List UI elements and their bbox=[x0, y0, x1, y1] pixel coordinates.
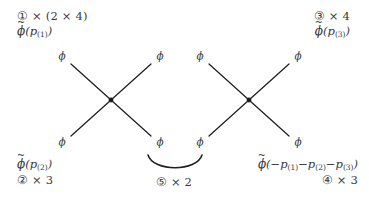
paren-close: ) bbox=[48, 24, 53, 38]
annotation-bottom-left: ~ ϕ (p(2)) ② × 3 bbox=[17, 157, 53, 188]
vertex-dot bbox=[109, 98, 114, 103]
momentum-term-1: −p bbox=[271, 157, 288, 171]
leg-lower-left bbox=[209, 100, 249, 136]
leg-upper-left bbox=[71, 64, 111, 100]
left-vertex-diagram: ϕ ϕ ϕ ϕ bbox=[58, 52, 164, 148]
field-label-p1: ~ ϕ (p(1)) bbox=[17, 24, 88, 40]
factor-label-5: ⑤ × 2 bbox=[141, 175, 207, 190]
annotation-top-right: ③ × 4 ~ ϕ (p(3)) bbox=[246, 9, 350, 40]
momentum-subscript-3: (3) bbox=[343, 163, 354, 172]
momentum-symbol: p bbox=[30, 24, 37, 38]
contraction-arc-icon bbox=[144, 152, 206, 174]
paren-close: ) bbox=[346, 24, 351, 38]
leg-label-lower-right: ϕ bbox=[156, 136, 163, 148]
leg-upper-right bbox=[249, 64, 289, 100]
momentum-subscript-2: (2) bbox=[315, 163, 326, 172]
operator-minus-2: − bbox=[326, 157, 336, 171]
field-label-p2: ~ ϕ (p(2)) bbox=[17, 157, 53, 173]
paren-close: ) bbox=[48, 157, 53, 171]
factor-label-3: ③ × 4 bbox=[246, 9, 350, 24]
momentum-subscript: (3) bbox=[335, 30, 346, 39]
momentum-term-3: p bbox=[336, 157, 343, 171]
leg-upper-right bbox=[111, 64, 151, 100]
phi-tilde-symbol: ~ ϕ bbox=[315, 24, 323, 40]
phi-tilde-symbol: ~ ϕ bbox=[258, 157, 266, 173]
phi-tilde-symbol: ~ ϕ bbox=[17, 157, 25, 173]
leg-label-upper-left: ϕ bbox=[58, 50, 65, 62]
factor-label-1: ① × (2 × 4) bbox=[17, 9, 88, 24]
leg-label-upper-right: ϕ bbox=[156, 50, 163, 62]
annotation-top-left: ① × (2 × 4) ~ ϕ (p(1)) bbox=[17, 9, 88, 40]
leg-label-upper-right: ϕ bbox=[294, 50, 301, 62]
leg-upper-left bbox=[209, 64, 249, 100]
arc-curve bbox=[148, 155, 202, 168]
leg-label-lower-right: ϕ bbox=[294, 136, 301, 148]
leg-lower-right bbox=[111, 100, 151, 136]
phi-tilde-symbol: ~ ϕ bbox=[17, 24, 25, 40]
leg-label-upper-left: ϕ bbox=[196, 50, 203, 62]
tilde-accent: ~ bbox=[315, 17, 323, 27]
momentum-symbol: p bbox=[328, 24, 335, 38]
right-vertex-diagram: ϕ ϕ ϕ ϕ bbox=[196, 52, 302, 148]
momentum-subscript: (2) bbox=[37, 163, 48, 172]
annotation-bottom-right: ~ ϕ (−p(1)−p(2)−p(3)) ④ × 3 bbox=[232, 157, 358, 188]
leg-label-lower-left: ϕ bbox=[58, 136, 65, 148]
leg-lower-left bbox=[71, 100, 111, 136]
field-label-p3: ~ ϕ (p(3)) bbox=[246, 24, 350, 40]
momentum-subscript-1: (1) bbox=[288, 163, 299, 172]
momentum-subscript: (1) bbox=[37, 30, 48, 39]
paren-close: ) bbox=[354, 157, 359, 171]
tilde-accent: ~ bbox=[258, 150, 266, 160]
tilde-accent: ~ bbox=[17, 17, 25, 27]
field-label-sum-momenta: ~ ϕ (−p(1)−p(2)−p(3)) bbox=[232, 157, 358, 173]
operator-minus-1: − bbox=[298, 157, 308, 171]
leg-lower-right bbox=[249, 100, 289, 136]
vertex-dot bbox=[247, 98, 252, 103]
annotation-center: ⑤ × 2 bbox=[141, 175, 207, 190]
feynman-figure: ① × (2 × 4) ~ ϕ (p(1)) ③ × 4 ~ ϕ (p(3)) … bbox=[0, 0, 369, 206]
momentum-symbol: p bbox=[30, 157, 37, 171]
tilde-accent: ~ bbox=[17, 150, 25, 160]
factor-label-2: ② × 3 bbox=[17, 173, 53, 188]
factor-label-4: ④ × 3 bbox=[232, 173, 358, 188]
leg-label-lower-left: ϕ bbox=[196, 136, 203, 148]
